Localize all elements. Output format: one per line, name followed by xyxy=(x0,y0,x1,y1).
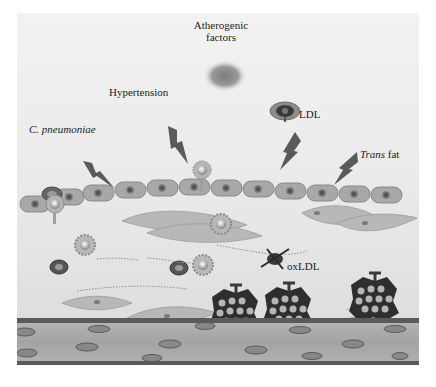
diagram-artwork xyxy=(17,13,419,365)
c-pneumoniae-label: C. pneumoniae xyxy=(29,123,96,135)
internal-elastic-lamina xyxy=(17,318,419,323)
oxldl-label: oxLDL xyxy=(287,260,319,272)
macrophage-icon xyxy=(75,235,95,255)
atherogenic-factors-label: Atherogenic factors xyxy=(185,19,257,43)
red-blood-cell-icon xyxy=(50,260,68,274)
ldl-label: LDL xyxy=(299,108,320,120)
bolt-icon-trans-fat xyxy=(334,152,358,185)
atherosclerosis-diagram: Atherogenic factors Hypertension C. pneu… xyxy=(17,13,419,365)
oxldl-particle-icon xyxy=(261,249,289,269)
atherogenic-cloud xyxy=(203,60,247,92)
ldl-particle-icon xyxy=(270,102,300,122)
monocyte-adhering-icon xyxy=(46,195,64,224)
hypertension-label: Hypertension xyxy=(109,86,168,98)
bolt-icon-hypertension xyxy=(168,126,188,164)
macrophage-icon xyxy=(211,214,231,234)
external-lamina xyxy=(17,361,419,365)
trans-fat-label: Trans fat xyxy=(360,148,399,160)
foam-cell-icon xyxy=(349,273,399,323)
macrophage-icon xyxy=(193,255,213,275)
bolt-icon-ldl xyxy=(280,132,301,170)
red-blood-cell-icon xyxy=(170,261,188,275)
